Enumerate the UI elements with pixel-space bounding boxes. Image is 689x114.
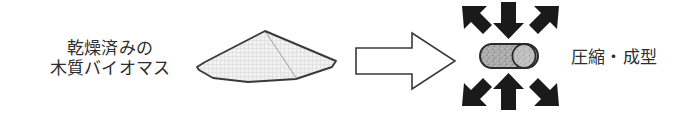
compression-arrow-down-left <box>529 6 559 34</box>
diagram-artwork <box>0 0 689 114</box>
compression-arrow-up-right <box>462 78 492 106</box>
compression-arrow-down <box>493 2 524 39</box>
pellet-cylinder-icon <box>480 44 538 68</box>
right-block-arrow-icon <box>356 33 455 89</box>
process-flow-diagram: 乾燥済みの 木質バイオマス 圧縮・成型 <box>0 0 689 114</box>
compression-arrow-down-right <box>462 6 492 34</box>
compression-arrow-up <box>493 73 524 110</box>
compression-arrow-up-left <box>529 78 559 106</box>
biomass-pile-icon <box>197 31 336 82</box>
